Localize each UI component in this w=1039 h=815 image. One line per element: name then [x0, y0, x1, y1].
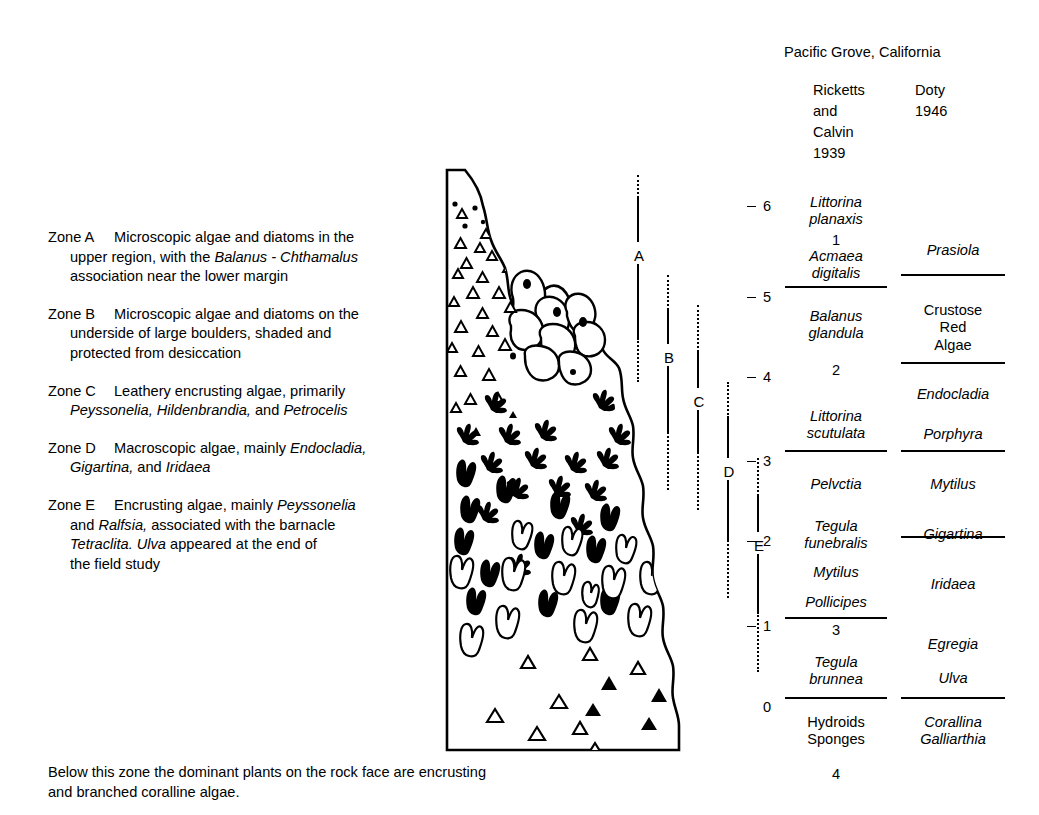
- species-entry: 3: [785, 622, 887, 639]
- zone-description-list: Zone AMicroscopic algae and diatoms in t…: [48, 228, 448, 592]
- bracket-solid-segment: [637, 198, 639, 242]
- zone-bracket-letter: B: [660, 350, 678, 365]
- figure-root: Zone AMicroscopic algae and diatoms in t…: [0, 0, 1039, 815]
- zone-entry-line: and Ralfsia, associated with the barnacl…: [48, 516, 448, 536]
- species-entry-line: Hydroids: [785, 714, 887, 731]
- scale-tick-dash: [747, 626, 756, 627]
- bracket-dotted-segment: [637, 175, 639, 198]
- species-entry: HydroidsSponges: [785, 714, 887, 749]
- tidal-zonation-panel: Pacific Grove, California RickettsandCal…: [745, 36, 1039, 796]
- scale-tick-dash: [747, 541, 756, 542]
- location-title: Pacific Grove, California: [784, 44, 941, 60]
- species-entry: 2: [785, 362, 887, 379]
- zone-entry-first-line: Zone CLeathery encrusting algae, primari…: [48, 382, 448, 402]
- bracket-solid-segment: [667, 366, 669, 432]
- species-name: Ralfsia,: [98, 517, 147, 533]
- species-name: Petrocelis: [283, 402, 347, 418]
- zone-entry-line: the field study: [48, 555, 448, 575]
- bracket-solid-segment: [697, 410, 699, 452]
- zone-bracket-letter: C: [690, 394, 708, 409]
- zone-text: associated with the barnacle: [147, 517, 335, 533]
- bracket-solid-segment: [667, 310, 669, 344]
- caption-line-1: Below this zone the dominant plants on t…: [48, 762, 688, 782]
- species-entry: Balanusglandula: [785, 308, 887, 343]
- zone-label: Zone B: [48, 305, 114, 325]
- zone-text: protected from desiccation: [70, 345, 241, 361]
- species-entry-line: Mytilus: [901, 476, 1005, 493]
- zone-entry: Zone DMacroscopic algae, mainly Endoclad…: [48, 439, 448, 478]
- species-entry-line: funebralis: [785, 535, 887, 552]
- species-entry: Tegulafunebralis: [785, 518, 887, 553]
- species-entry: Endocladia: [901, 386, 1005, 403]
- species-entry-line: Galliarthia: [901, 731, 1005, 748]
- species-name: Iridaea: [166, 459, 211, 475]
- species-entry-line: Crustose: [901, 302, 1005, 319]
- zone-label: Zone D: [48, 439, 114, 459]
- species-name: Peyssonelia, Hildenbrandia,: [70, 402, 251, 418]
- species-entry: Prasiola: [901, 242, 1005, 259]
- column-divider: [785, 697, 887, 699]
- bracket-solid-segment: [637, 264, 639, 338]
- zone-entry: Zone AMicroscopic algae and diatoms in t…: [48, 228, 448, 287]
- species-entry-line: 2: [785, 362, 887, 379]
- species-entry: Mytilus: [901, 476, 1005, 493]
- column-divider: [901, 274, 1005, 276]
- species-entry-line: Red: [901, 319, 1005, 336]
- column-header-line: 1946: [915, 101, 947, 122]
- zone-label: Zone A: [48, 228, 114, 248]
- species-name: Tetraclita. Ulva: [70, 536, 166, 552]
- species-name: Peyssonelia: [277, 497, 356, 513]
- column-divider: [901, 450, 1005, 452]
- bracket-dotted-segment: [637, 338, 639, 382]
- zone-entry: Zone EEncrusting algae, mainly Peyssonel…: [48, 496, 448, 574]
- column-header-line: Doty: [915, 80, 947, 101]
- species-entry-line: Littorina: [785, 194, 887, 211]
- species-entry: CorallinaGalliarthia: [901, 714, 1005, 749]
- zone-entry-line: Peyssonelia, Hildenbrandia, and Petrocel…: [48, 401, 448, 421]
- species-entry-line: Gigartina: [901, 526, 1005, 543]
- zone-entry: Zone BMicroscopic algae and diatoms on t…: [48, 305, 448, 364]
- bracket-dotted-segment: [697, 452, 699, 510]
- species-entry-line: scutulata: [785, 425, 887, 442]
- bracket-solid-segment: [727, 418, 729, 458]
- figure-caption: Below this zone the dominant plants on t…: [48, 762, 688, 802]
- bracket-dotted-segment: [667, 275, 669, 310]
- column-header-line: 1939: [813, 143, 865, 164]
- zone-text: Encrusting algae, mainly: [114, 497, 277, 513]
- species-entry-line: 1: [785, 232, 887, 249]
- species-entry: Ulva: [901, 670, 1005, 687]
- zone-bracket-letter: A: [630, 248, 648, 263]
- scale-tick-label: 1: [761, 619, 773, 634]
- species-entry: Porphyra: [901, 426, 1005, 443]
- caption-line-2: and branched coralline algae.: [48, 782, 688, 802]
- scale-tick-label: 3: [761, 454, 773, 469]
- zone-text: upper region, with the: [70, 249, 214, 265]
- zone-entry-first-line: Zone EEncrusting algae, mainly Peyssonel…: [48, 496, 448, 516]
- zone-entry-first-line: Zone DMacroscopic algae, mainly Endoclad…: [48, 439, 448, 459]
- species-entry-line: 4: [785, 766, 887, 783]
- species-entry-line: Littorina: [785, 408, 887, 425]
- zone-text: underside of large boulders, shaded and: [70, 325, 331, 341]
- column-header-ricketts-calvin: RickettsandCalvin1939: [813, 80, 865, 164]
- column-divider: [785, 617, 887, 619]
- species-entry: Acmaeadigitalis: [785, 248, 887, 283]
- species-entry: Tegulabrunnea: [785, 654, 887, 689]
- scale-tick-label: 5: [761, 290, 773, 305]
- species-entry: Mytilus: [785, 564, 887, 581]
- species-entry-line: Pollicipes: [785, 594, 887, 611]
- column-header-line: and: [813, 101, 865, 122]
- zone-entry-line: association near the lower margin: [48, 267, 448, 287]
- bracket-dotted-segment: [697, 305, 699, 352]
- scale-tick-label: 4: [761, 370, 773, 385]
- species-entry: Littorinascutulata: [785, 408, 887, 443]
- column-header-line: Calvin: [813, 122, 865, 143]
- zone-text: association near the lower margin: [70, 268, 288, 284]
- zone-entry-line: Tetraclita. Ulva appeared at the end of: [48, 535, 448, 555]
- zone-text: and: [70, 517, 98, 533]
- species-entry-line: planaxis: [785, 211, 887, 228]
- species-entry-line: Endocladia: [901, 386, 1005, 403]
- column-divider: [901, 536, 1005, 538]
- species-entry-line: Algae: [901, 337, 1005, 354]
- scale-tick-dash: [747, 206, 756, 207]
- column-divider: [901, 697, 1005, 699]
